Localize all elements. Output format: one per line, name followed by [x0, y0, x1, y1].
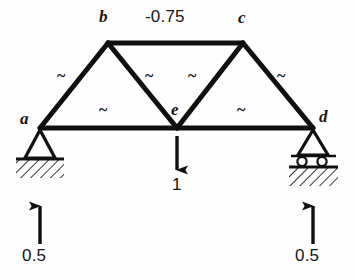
- roller-wheel-left-icon: [297, 157, 306, 166]
- node-label-e: e: [171, 101, 179, 118]
- support-a-pinned: [16, 130, 64, 178]
- support-d-roller: [289, 130, 338, 186]
- node-label-a: a: [20, 110, 29, 127]
- member-be: [108, 43, 177, 128]
- member-ce: [177, 43, 243, 128]
- member-ab: [40, 43, 108, 128]
- reaction-value-d: 0.5: [295, 247, 319, 264]
- ground-hatch-a: [16, 160, 64, 178]
- member-force-bc: -0.75: [145, 8, 185, 25]
- member-force-ae: ~: [99, 102, 107, 118]
- node-label-d: d: [319, 108, 328, 125]
- member-force-ab: ~: [57, 68, 65, 84]
- roller-triangle-icon: [298, 130, 328, 155]
- node-label-b: b: [99, 8, 108, 25]
- roller-wheel-right-icon: [317, 157, 326, 166]
- truss-diagram-figure: a b c d e ~ -0.75 ~ ~ ~ ~ ~ 1 0.5 0.5: [0, 0, 355, 280]
- member-force-ce: ~: [188, 68, 196, 84]
- member-force-ed: ~: [237, 102, 245, 118]
- pin-triangle-icon: [25, 130, 55, 158]
- member-force-cd: ~: [277, 68, 285, 84]
- member-cd: [243, 43, 313, 128]
- reaction-value-a: 0.5: [22, 247, 46, 264]
- member-force-be: ~: [145, 68, 153, 84]
- node-label-c: c: [238, 9, 246, 26]
- ground-hatch-d: [289, 168, 338, 186]
- load-value-e: 1: [172, 176, 182, 193]
- truss-drawing: [0, 0, 355, 280]
